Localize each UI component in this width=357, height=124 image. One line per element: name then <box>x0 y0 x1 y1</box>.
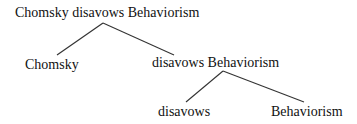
edge-vp-to-disavows <box>186 71 223 102</box>
node-disavows-behaviorism: disavows Behaviorism <box>152 55 279 71</box>
node-behaviorism: Behaviorism <box>271 104 343 120</box>
root-node: Chomsky disavows Behaviorism <box>15 5 199 21</box>
edge-root-to-disavows-behaviorism <box>103 23 174 55</box>
edge-root-to-chomsky <box>57 23 103 55</box>
edge-vp-to-behaviorism <box>223 71 304 102</box>
node-chomsky: Chomsky <box>25 57 79 73</box>
node-disavows: disavows <box>158 104 210 120</box>
parse-tree-diagram: Chomsky disavows Behaviorism Chomsky dis… <box>0 0 357 124</box>
